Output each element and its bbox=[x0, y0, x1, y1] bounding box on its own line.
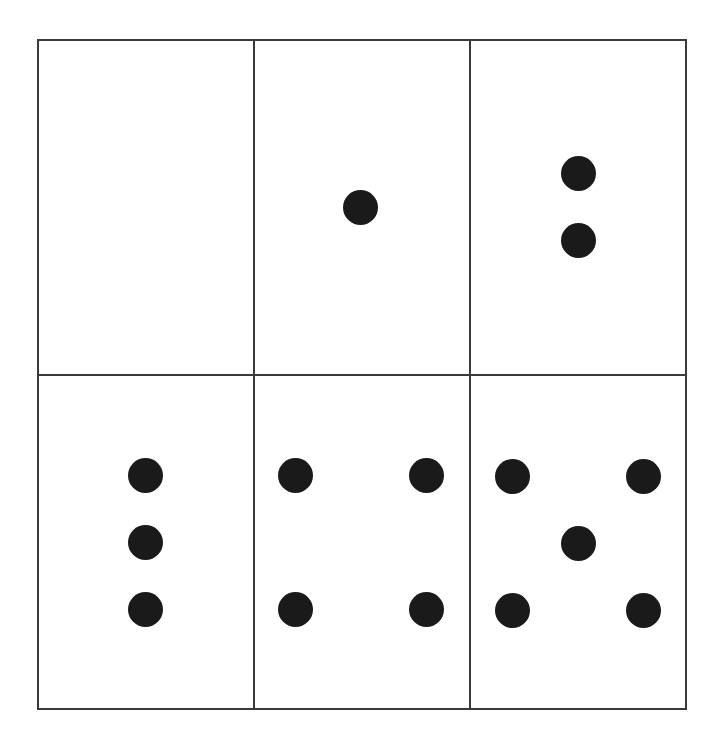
dot-cell-4-3 bbox=[409, 592, 444, 627]
dot-cell-2-0 bbox=[561, 156, 596, 191]
dot-cell-5-3 bbox=[495, 593, 530, 628]
dot-cell-1-0 bbox=[343, 190, 378, 225]
dot-cell-3-0 bbox=[128, 458, 163, 493]
dot-cell-2-1 bbox=[561, 223, 596, 258]
dot-cell-4-1 bbox=[409, 458, 444, 493]
dot-cell-4-0 bbox=[278, 458, 313, 493]
dot-cell-5-0 bbox=[495, 459, 530, 494]
dot-cell-5-1 bbox=[626, 459, 661, 494]
dot-cell-3-1 bbox=[128, 525, 163, 560]
dot-cell-5-2 bbox=[561, 526, 596, 561]
dot-cell-4-2 bbox=[278, 592, 313, 627]
dot-cell-5-4 bbox=[626, 593, 661, 628]
horizontal-divider bbox=[39, 374, 685, 376]
dot-cell-3-2 bbox=[128, 592, 163, 627]
